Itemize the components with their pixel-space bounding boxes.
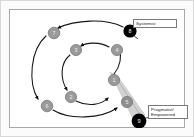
node-n7[interactable]: 7 (48, 27, 60, 39)
node-label: 8 (129, 28, 132, 34)
annotation-pragmatist: Pragmatist/ Empowered (148, 105, 188, 119)
node-label: 9 (137, 118, 140, 124)
node-label: 1 (113, 77, 116, 83)
node-label: 4 (116, 47, 119, 53)
node-label: 7 (53, 30, 56, 36)
node-n1[interactable]: 1 (108, 74, 119, 85)
node-label: 5 (126, 99, 129, 105)
node-n9[interactable]: 9 (132, 114, 147, 128)
callout-leader-systemist (133, 35, 138, 39)
node-label: 6 (46, 103, 49, 109)
node-n6[interactable]: 6 (41, 100, 53, 112)
node-n5[interactable]: 5 (121, 96, 132, 107)
annotation-systemist: Systemist (133, 19, 177, 28)
figure-canvas: 3 4 2 1 7 6 5 8 (0, 0, 194, 137)
node-n2[interactable]: 2 (65, 91, 76, 102)
node-label: 3 (75, 47, 78, 53)
node-n4[interactable]: 4 (111, 44, 122, 55)
node-label: 2 (70, 94, 73, 100)
node-n3[interactable]: 3 (70, 44, 81, 55)
